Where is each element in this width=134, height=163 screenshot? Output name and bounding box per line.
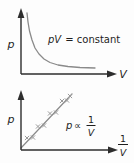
boyles-law-diagram: p V pV= constant p 1 V p ∝ 1 V (0, 0, 134, 163)
data-point-x-marker (25, 136, 29, 140)
bottom-pressure-axis-label: p (7, 113, 15, 126)
data-point-x-marker (36, 124, 40, 128)
proportional-to-symbol: ∝ (74, 120, 81, 131)
axis-fraction-numerator: 1 (120, 133, 126, 144)
relation-variable: p (65, 120, 72, 131)
top-graph-p-vs-v: p V pV= constant (7, 8, 129, 81)
data-point-x-marker (60, 99, 64, 103)
relation-fraction-denominator: V (88, 127, 96, 138)
bottom-y-axis-arrow-icon (18, 90, 25, 100)
equation-variables: pV (47, 34, 62, 45)
equation-rest: = constant (65, 34, 120, 45)
top-y-axis-arrow-icon (18, 8, 25, 18)
data-point-x-marker (68, 94, 72, 98)
relation-fraction-numerator: 1 (88, 114, 94, 125)
data-point-x-marker (48, 111, 52, 115)
top-x-axis-arrow-icon (107, 71, 117, 78)
axis-fraction-denominator: V (120, 147, 128, 158)
bottom-x-axis-arrow-icon (108, 147, 118, 154)
proportionality-relation: p ∝ 1 V (65, 114, 96, 138)
pv-constant-equation: pV= constant (47, 34, 120, 45)
reciprocal-volume-axis-label: 1 V (118, 133, 128, 158)
bottom-graph-p-vs-reciprocal-v: p 1 V p ∝ 1 V (7, 90, 128, 158)
top-volume-axis-label: V (119, 68, 128, 81)
top-pressure-axis-label: p (7, 38, 15, 51)
